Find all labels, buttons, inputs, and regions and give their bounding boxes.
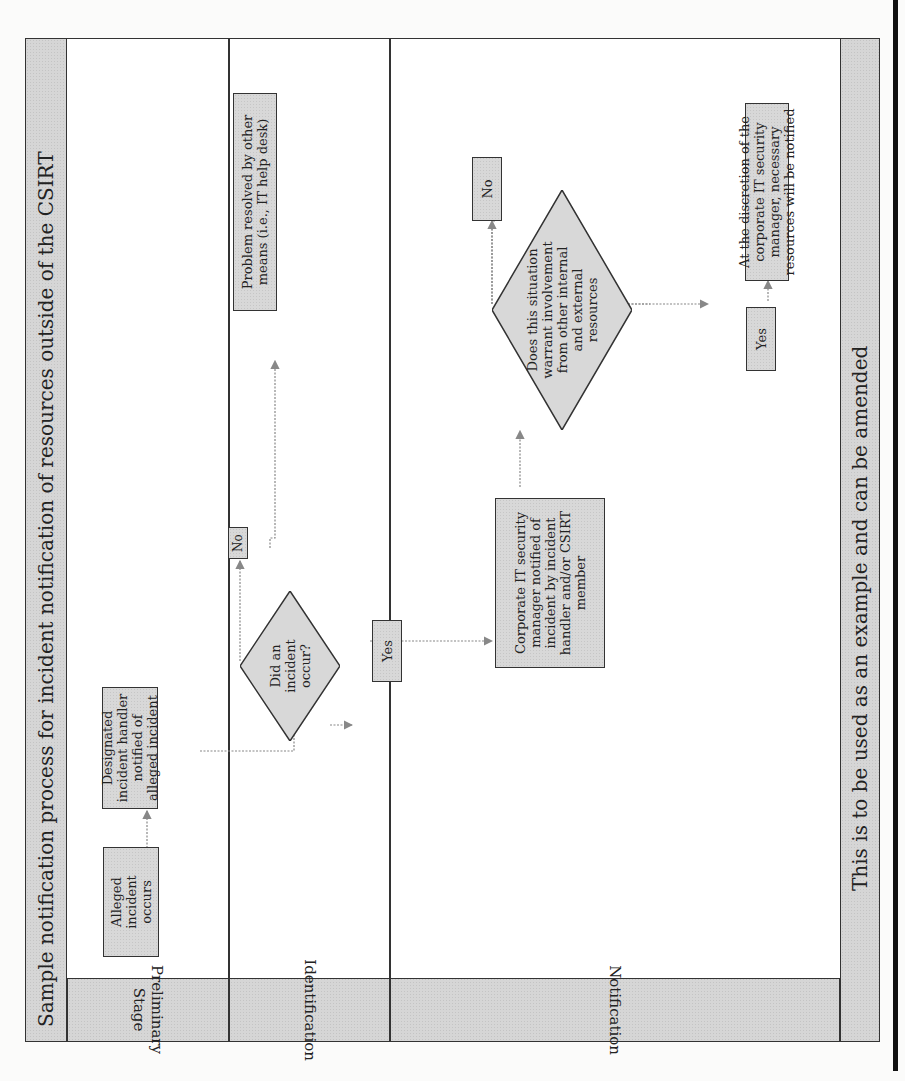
page-edge-bar [893, 0, 898, 1071]
node-no-1: No [228, 527, 248, 559]
node-discretion-notified: At the discretion of the corporate IT se… [745, 103, 789, 281]
node-no-2: No [472, 157, 502, 221]
node-designated-handler: Designated incident handler notified of … [102, 687, 158, 809]
node-it-manager-notified: Corporate IT security manager notified o… [495, 498, 605, 668]
rotated-page: Sample notification process for incident… [0, 0, 905, 1081]
node-alleged-incident: Alleged incident occurs [103, 847, 159, 957]
decision-warrant-involvement-label: Does this situation warrant involvement … [520, 240, 604, 380]
node-problem-resolved: Problem resolved by other means (i.e., I… [233, 93, 277, 311]
decision-did-incident-occur-label: Did an incident occur? [265, 616, 315, 716]
node-yes-2: Yes [746, 307, 776, 371]
node-yes-1: Yes [372, 620, 402, 682]
